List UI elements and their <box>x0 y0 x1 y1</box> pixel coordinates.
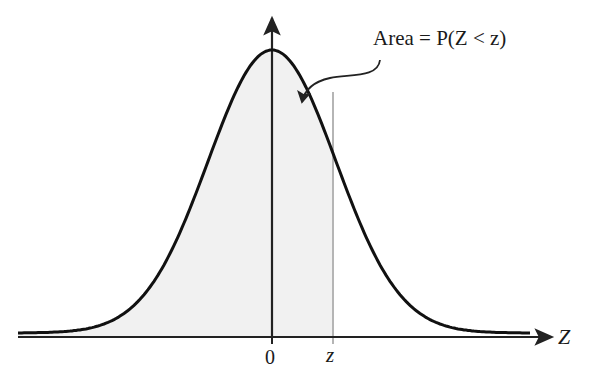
x-axis-label: Z <box>558 324 570 350</box>
z-marker-label: z <box>326 343 334 368</box>
origin-label: 0 <box>265 346 275 369</box>
area-annotation: Area = P(Z < z) <box>373 26 506 51</box>
shaded-area <box>18 50 333 337</box>
annotation-pointer-arrow <box>302 60 380 102</box>
normal-distribution-diagram <box>0 0 590 383</box>
